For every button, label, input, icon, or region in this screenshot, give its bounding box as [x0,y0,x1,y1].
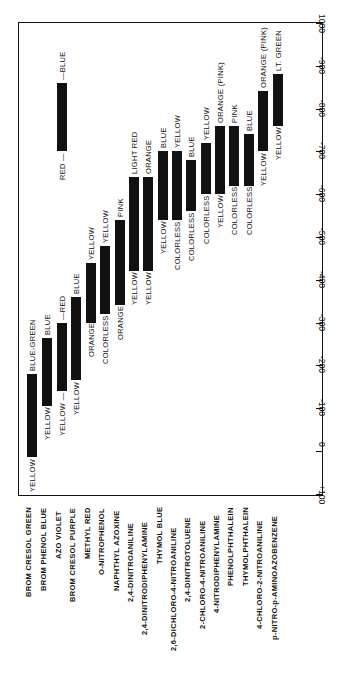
high-color-label: YELLOW [173,115,182,148]
high-color-label: LT. GREEN [274,30,283,71]
axis-tick-label: -100 [317,399,327,416]
range-bar [215,126,225,194]
range-bar [186,160,196,211]
low-color-label: YELLOW [159,221,168,254]
low-color-label: YELLOW [130,272,139,305]
axis-tick-label: -700 [317,142,327,159]
range-bar [172,151,182,219]
range-bar [42,338,52,406]
indicator-name: AZO VIOLET [54,511,63,559]
high-color-label: BLUE [72,273,81,294]
range-bar [129,177,139,271]
high-color-label: LIGHT RED [130,132,139,175]
indicator-name: 2,4-DINITROTOLUENE [183,517,192,602]
range-bar [143,177,153,271]
range-bar [100,246,110,314]
low-color-label: COLORLESS [245,187,254,236]
axis-tick-label: -900 [317,57,327,74]
axis-tick-label: 1000 [317,14,327,33]
range-bar [115,220,125,306]
indicator-name: BROM PHENOL BLUE [39,508,48,591]
low-color-label: COLORLESS [173,221,182,270]
high-color-label: ORANGE (PINK) [216,62,225,123]
high-color-label: —RED [58,295,67,320]
high-color-label: YELLOW [101,209,110,242]
low-color-label: YELLOW [216,195,225,228]
high-color-label: ORANGE [144,140,153,174]
range-bar [273,74,283,125]
low-color-label: YELLOW [28,459,37,492]
indicator-name: BROM CRESOL GREEN [24,507,33,597]
indicator-name: 2,4-DINITROANILINE [126,523,135,602]
high-color-label: BLUE [159,128,168,149]
range-bar [57,323,67,391]
indicator-name: BROM CRESOL PURPLE [68,508,77,602]
high-color-label: BLUE [245,110,254,131]
axis-tick-label: -200 [317,356,327,373]
indicator-name: 4-NITRODIPHENYLAMINE [212,515,221,613]
low-color-label: YELLOW [43,407,52,440]
range-bar [229,126,239,186]
indicator-name: METHYL RED [83,507,92,559]
axis-tick-label: -400 [317,271,327,288]
axis-tick-label: +100 [317,485,327,504]
high-color-label: YELLOW [87,227,96,260]
indicator-range-chart: +1000-100-200-300-400-500-600-700-800-90… [0,0,354,689]
indicator-name: PHENOLPHTHALEIN [226,507,235,586]
high-color-label: —BLUE [58,51,67,80]
low-color-label: YELLOW [259,153,268,186]
axis-tick [316,451,322,452]
indicator-name: 2-CHLORO-4-NITROANILINE [198,521,207,630]
low-color-label: ORANGE [87,322,96,356]
range-bar [57,83,67,151]
range-bar [158,151,168,219]
low-color-label: YELLOW [72,382,81,415]
range-bar [244,134,254,185]
axis-tick-label: -300 [317,314,327,331]
low-color-label: COLORLESS [230,187,239,236]
axis-tick-label: -500 [317,228,327,245]
range-bar [258,91,268,151]
high-color-label: BLUE [43,314,52,335]
low-color-label: RED — [58,153,67,180]
low-color-label: ORANGE [116,305,125,339]
high-color-label: ORANGE (PINK) [259,27,268,88]
range-bar [27,374,37,457]
axis-tick-label: -800 [317,100,327,117]
low-color-label: COLORLESS [202,195,211,244]
indicator-name: 4-CHLORO-2-NITROANILINE [255,521,264,630]
low-color-label: YELLOW — [58,392,67,435]
low-color-label: YELLOW [274,127,283,160]
range-bar [71,297,81,380]
high-color-label: BLUE [187,136,196,157]
axis-tick-label: -600 [317,185,327,202]
range-bar [201,143,211,194]
axis-tick-label: 0 [317,442,327,447]
high-color-label: PINK [116,198,125,217]
low-color-label: COLORLESS [187,213,196,262]
indicator-name: THYMOL BLUE [155,507,164,564]
indicator-name: 2,4-DINITRODIPHENYLAMINE [140,522,149,635]
high-color-label: BLUE-GREEN [28,319,37,371]
high-color-label: PINK [230,104,239,123]
indicator-name: O-NITROPHENOL [97,508,106,575]
indicator-name: 2,6-DICHLORO-4-NITROANILINE [169,527,178,651]
range-bar [86,263,96,323]
high-color-label: YELLOW [202,107,211,140]
indicator-name: p-NITRO-p-AMINOAZOBENZENE [270,516,279,640]
low-color-label: YELLOW [144,272,153,305]
low-color-label: COLORLESS [101,315,110,364]
indicator-name: NAPHTHYL AZOXINE [112,511,121,592]
indicator-name: THYMOLPHTHALEIN [241,507,250,586]
value-axis [322,22,323,496]
